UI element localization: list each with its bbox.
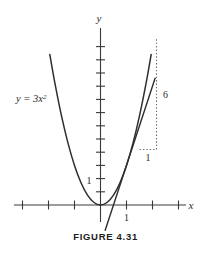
x-axis-label: x: [188, 199, 194, 211]
equation-label-exponent: 2: [43, 93, 47, 101]
y-axis-group: [96, 28, 105, 222]
figure-container: x y 1 1 1 6 y = 3x2 FIGURE 4.31: [0, 0, 211, 253]
y-tick-label-1: 1: [87, 175, 92, 186]
x-tick-label-1: 1: [124, 212, 129, 223]
slope-triangle-group: [140, 39, 157, 150]
y-axis-label: y: [96, 12, 102, 24]
equation-label: y = 3x2: [15, 93, 47, 105]
slope-run-label: 1: [146, 152, 151, 163]
graph-plot: x y 1 1 1 6 y = 3x2: [0, 0, 211, 253]
figure-caption: FIGURE 4.31: [0, 231, 211, 242]
slope-rise-label: 6: [163, 89, 168, 100]
equation-label-text: y = 3x: [15, 93, 43, 104]
